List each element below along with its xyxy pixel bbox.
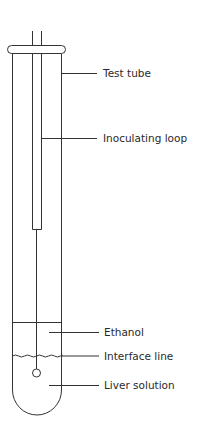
- label-test-tube: Test tube: [103, 67, 151, 79]
- label-ethanol: Ethanol: [104, 326, 144, 338]
- interface-wavy-line: [13, 355, 63, 357]
- label-interface-line: Interface line: [104, 350, 173, 362]
- test-tube-rim: [8, 46, 66, 54]
- label-inoculating-loop: Inoculating loop: [103, 132, 187, 144]
- loop-handle: [33, 54, 42, 230]
- label-liver-solution: Liver solution: [104, 379, 175, 391]
- loop-circle: [33, 369, 41, 377]
